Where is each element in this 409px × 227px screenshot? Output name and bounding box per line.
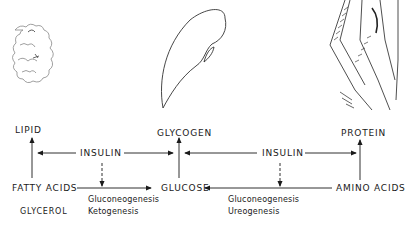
glycogen-label: GLYCOGEN (157, 128, 212, 138)
process-left-2: Ketogenesis (88, 207, 139, 216)
fatty-acids-label: FATTY ACIDS (12, 183, 77, 193)
protein-label: PROTEIN (341, 128, 386, 138)
muscle-illustration (330, 0, 398, 110)
adipose-tissue-illustration (13, 24, 54, 82)
insulin-right-label: INSULIN (262, 148, 304, 158)
glycerol-label: GLYCEROL (20, 207, 67, 216)
amino-acids-label: AMINO ACIDS (336, 183, 406, 193)
insulin-left-label: INSULIN (80, 148, 122, 158)
liver-illustration (161, 10, 225, 108)
glucose-label: GLUCOSE (161, 183, 210, 193)
process-right-1: Gluconeogenesis (228, 195, 299, 204)
lipid-label: LIPID (15, 125, 42, 135)
process-right-2: Ureogenesis (228, 207, 280, 216)
pathway-arrows (32, 138, 360, 188)
process-left-1: Gluconeogenesis (88, 195, 159, 204)
